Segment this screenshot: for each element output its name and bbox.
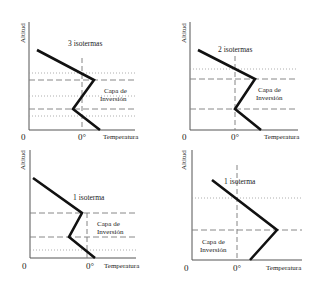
origin-label: 0 — [21, 132, 26, 142]
inversion-label-line2: Inversión — [97, 228, 124, 236]
panel-title: 2 isotermas — [218, 45, 252, 54]
origin-label: 0 — [184, 263, 189, 273]
panel-1-isoterma-surface: 1 isoterma Capa de Inversión 0 0° Temper… — [180, 150, 302, 273]
temperature-profile — [37, 50, 100, 130]
x-axis-label: Temperatura — [264, 133, 300, 141]
inversion-label-line1: Capa de — [202, 238, 225, 246]
y-axis-label: Altitud — [180, 150, 188, 170]
freezing-label: 0° — [86, 261, 95, 271]
inversion-label-line1: Capa de — [104, 87, 127, 95]
diagram-canvas: 3 isotermas Capa de Inversión 0 0° Tempe… — [0, 0, 318, 292]
inversion-label-line2: Inversión — [200, 246, 227, 254]
panel-title: 3 isotermas — [68, 39, 102, 48]
freezing-label: 0° — [78, 132, 87, 142]
panel-title: 1 isoterma — [224, 177, 256, 186]
y-axis-label: Altitud — [19, 23, 27, 43]
freezing-label: 0° — [231, 132, 240, 142]
inversion-label-line1: Capa de — [258, 86, 281, 94]
freezing-label: 0° — [233, 263, 242, 273]
inversion-label-line1: Capa de — [97, 220, 120, 228]
panel-2-isotermas: 2 isotermas Capa de Inversión 0 0° Tempe… — [180, 22, 300, 142]
x-axis-label: Temperatura — [266, 264, 302, 272]
temperature-profile — [33, 178, 95, 258]
y-axis-label: Altitud — [180, 23, 188, 43]
inversion-label-line2: Inversión — [256, 94, 283, 102]
x-axis-label: Temperatura — [104, 262, 140, 270]
origin-label: 0 — [182, 132, 187, 142]
y-axis-label: Altitud — [19, 150, 27, 170]
panel-title: 1 isoterma — [73, 193, 105, 202]
panel-1-isoterma-aloft: 1 isoterma Capa de Inversión 0 0° Temper… — [19, 150, 140, 271]
inversion-label-line2: Inversión — [100, 95, 127, 103]
x-axis-label: Temperatura — [103, 133, 139, 141]
origin-label: 0 — [22, 261, 27, 271]
temperature-profile — [198, 50, 261, 130]
panel-3-isotermas: 3 isotermas Capa de Inversión 0 0° Tempe… — [19, 22, 139, 142]
isotherm-diagram: 3 isotermas Capa de Inversión 0 0° Tempe… — [0, 0, 318, 292]
